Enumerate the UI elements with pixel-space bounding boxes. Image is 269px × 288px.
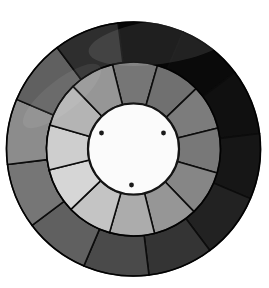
screw-hole-bottom (129, 183, 134, 188)
image-canvas: Grayscale calibration disc circular two-… (0, 0, 269, 288)
screw-hole-right (161, 131, 166, 136)
hub-group (88, 104, 179, 195)
screw-hole-left (99, 131, 104, 136)
calibration-disc (0, 0, 269, 288)
center-hub (88, 104, 179, 195)
